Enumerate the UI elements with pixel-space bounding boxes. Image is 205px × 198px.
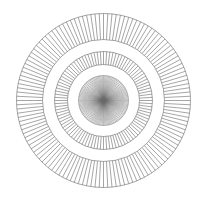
spoke — [109, 161, 112, 187]
spoke — [108, 136, 110, 149]
spoke — [48, 148, 64, 168]
spoke — [131, 124, 141, 133]
spoke — [99, 14, 100, 40]
spoke — [124, 60, 131, 71]
spoke — [139, 103, 152, 104]
spoke — [63, 73, 74, 80]
spoke — [82, 57, 88, 69]
spoke — [39, 42, 58, 59]
spoke — [17, 92, 43, 95]
spoke — [74, 158, 83, 182]
spoke — [67, 124, 77, 133]
spoke — [139, 91, 152, 94]
spoke — [97, 52, 99, 65]
spoke — [55, 103, 68, 104]
spoke — [142, 148, 158, 168]
spoke — [121, 17, 129, 42]
spoke — [20, 118, 45, 126]
spoke — [99, 161, 100, 187]
spoke — [71, 64, 80, 74]
spoke — [147, 144, 165, 162]
spoke — [42, 144, 60, 162]
spoke — [74, 19, 83, 43]
spoke — [67, 68, 77, 77]
spoke — [129, 126, 138, 135]
spoke — [162, 118, 187, 126]
spoke — [91, 14, 95, 40]
spoke — [106, 136, 107, 149]
spoke — [36, 45, 56, 61]
spoke — [129, 66, 138, 75]
spoke — [136, 116, 148, 122]
spoke — [52, 31, 67, 52]
spoke — [124, 19, 133, 43]
spoke — [139, 94, 152, 96]
spoke — [153, 137, 174, 152]
spoke — [79, 132, 86, 143]
spoke — [52, 150, 67, 171]
spoke — [39, 141, 58, 158]
spoke — [119, 133, 125, 145]
spoke — [55, 97, 68, 98]
spoke — [61, 76, 72, 83]
spoke — [124, 158, 133, 182]
spoke — [132, 71, 142, 79]
spoke — [164, 92, 190, 95]
spoke — [136, 79, 148, 85]
spoke — [121, 159, 129, 184]
spoke — [69, 66, 78, 75]
concentric-spoke-rings-figure — [0, 0, 205, 198]
spoke — [74, 129, 82, 139]
spoke — [22, 121, 46, 130]
spoke — [149, 42, 168, 59]
spoke — [111, 52, 114, 65]
spoke — [94, 52, 97, 65]
spoke — [139, 97, 152, 98]
spoke — [109, 14, 112, 40]
spoke — [119, 57, 125, 69]
spoke — [17, 96, 43, 97]
spoke — [144, 36, 161, 55]
spoke — [45, 36, 62, 55]
spoke — [108, 52, 110, 65]
spoke — [131, 68, 141, 77]
spoke — [48, 33, 64, 53]
spoke — [164, 103, 190, 104]
spoke — [125, 62, 133, 72]
spoke — [42, 39, 60, 57]
spoke — [106, 161, 107, 187]
spoke — [147, 39, 165, 57]
spoke — [142, 33, 158, 53]
spoke — [61, 119, 72, 126]
spoke — [100, 136, 101, 149]
spoke — [122, 132, 129, 143]
spoke — [71, 128, 80, 138]
spoke — [153, 49, 174, 64]
spoke — [132, 122, 142, 130]
spoke — [164, 109, 190, 113]
spoke — [55, 94, 68, 96]
spoke — [34, 49, 55, 64]
spoke — [161, 71, 185, 80]
spoke — [139, 105, 152, 107]
inner-disc — [79, 76, 129, 126]
spoke — [127, 64, 136, 74]
spoke — [139, 108, 152, 111]
spoke — [82, 133, 88, 145]
spoke — [95, 14, 98, 40]
spoke — [151, 139, 171, 155]
spoke — [63, 121, 74, 128]
spoke — [164, 106, 190, 109]
spoke — [133, 73, 144, 80]
spoke — [79, 58, 86, 69]
spoke — [164, 96, 190, 97]
spoke — [140, 31, 155, 52]
spoke — [17, 109, 43, 113]
spoke — [78, 159, 86, 184]
spoke — [144, 146, 161, 165]
spoke — [65, 122, 75, 130]
spoke — [125, 129, 133, 139]
spoke — [161, 121, 185, 130]
spoke — [60, 79, 72, 85]
spoke — [140, 150, 155, 171]
